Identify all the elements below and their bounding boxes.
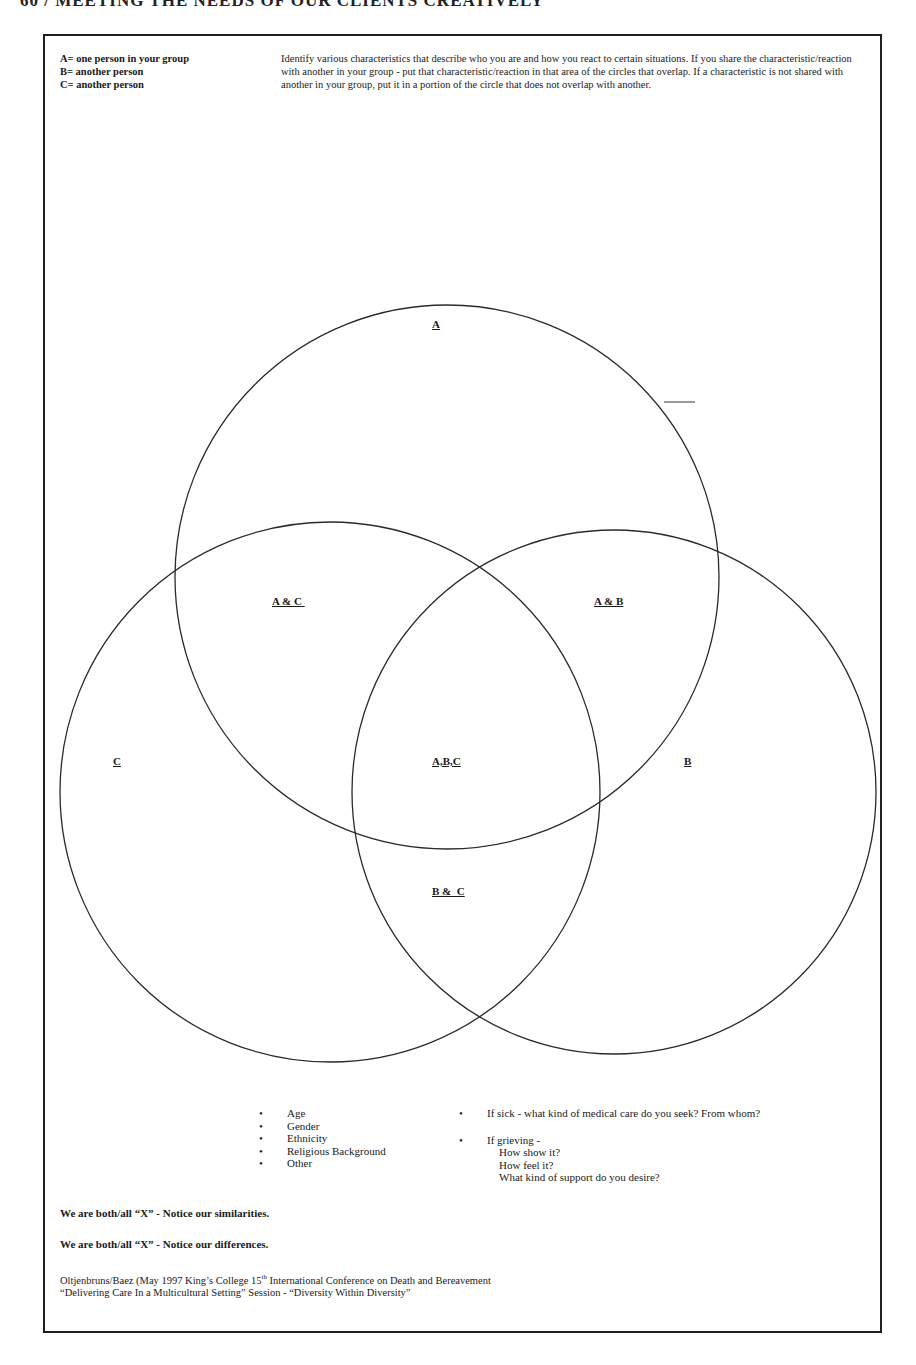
venn-diagram (0, 0, 916, 1365)
list-item: Age (259, 1107, 386, 1120)
list-item: Religious Background (259, 1145, 386, 1158)
sub-item: How show it? (459, 1146, 760, 1159)
source-credit: Oltjenbruns/Baez (May 1997 King’s Colleg… (60, 1271, 491, 1299)
list-item: Other (259, 1157, 386, 1170)
differences-note: We are both/all “X” - Notice our differe… (60, 1238, 268, 1250)
credit-line-2: “Delivering Care In a Multicultural Sett… (60, 1287, 491, 1299)
region-label-a-and-b: A & B (594, 595, 623, 607)
list-item: If sick - what kind of medical care do y… (459, 1107, 760, 1120)
characteristics-list: Age Gender Ethnicity Religious Backgroun… (259, 1107, 386, 1170)
region-label-a: A (432, 318, 440, 330)
sub-item: How feel it? (459, 1159, 760, 1172)
circle-a (175, 305, 719, 849)
circle-c (60, 522, 600, 1062)
region-label-b: B (684, 755, 691, 767)
list-item: Ethnicity (259, 1132, 386, 1145)
reactions-list: If sick - what kind of medical care do y… (459, 1107, 760, 1184)
credit-line-1: Oltjenbruns/Baez (May 1997 King’s Colleg… (60, 1271, 491, 1287)
region-label-b-and-c: B & C (432, 885, 465, 897)
region-label-c: C (113, 755, 121, 767)
credit-line-1-rest: International Conference on Death and Be… (267, 1275, 491, 1286)
region-label-a-b-c: A,B,C (432, 755, 461, 767)
region-label-a-and-c: A & C (272, 595, 305, 607)
credit-line-1-text: Oltjenbruns/Baez (May 1997 King’s Colleg… (60, 1275, 262, 1286)
list-item: If grieving - (459, 1134, 760, 1147)
sub-item: What kind of support do you desire? (459, 1171, 760, 1184)
similarities-note: We are both/all “X” - Notice our similar… (60, 1207, 269, 1219)
list-item: Gender (259, 1120, 386, 1133)
